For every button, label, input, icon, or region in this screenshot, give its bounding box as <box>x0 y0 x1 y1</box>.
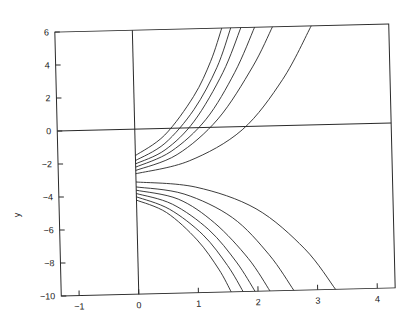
x-tick-label: 0 <box>136 300 141 310</box>
y-tick-label: 2 <box>45 93 50 103</box>
y-tick-label: −2 <box>42 159 53 169</box>
y-tick-label: −10 <box>40 291 56 301</box>
x-tick-label: 2 <box>256 297 261 307</box>
reference-lines <box>55 24 395 296</box>
curve-upper-6 <box>132 26 314 174</box>
data-curves <box>132 25 335 294</box>
chart: −101234 6420−2−4−6−8−10 y <box>0 0 413 325</box>
y-tick-label: −8 <box>44 258 55 268</box>
curve-upper-1 <box>132 28 225 156</box>
curve-upper-3 <box>132 28 244 164</box>
curve-upper-2 <box>132 28 234 161</box>
x-tick-label: −1 <box>74 301 85 311</box>
plot-area: −101234 6420−2−4−6−8−10 <box>33 19 395 313</box>
curve-upper-5 <box>132 27 276 171</box>
y-axis-ticks: 6420−2−4−6−8−10 <box>33 27 66 302</box>
x-tick-label: 3 <box>315 296 320 306</box>
curve-lower-1 <box>136 177 336 294</box>
y-tick-label: 0 <box>46 126 51 136</box>
y-tick-label: 6 <box>44 27 49 37</box>
y-zero-line <box>57 123 391 131</box>
y-tick-label: −6 <box>43 225 54 235</box>
y-tick-label: −4 <box>42 192 53 202</box>
y-axis-label: y <box>12 212 22 217</box>
y-tick-label: 4 <box>44 60 49 70</box>
x-zero-line <box>132 30 138 294</box>
curve-lower-6 <box>136 198 231 294</box>
curve-lower-5 <box>136 194 243 294</box>
x-tick-label: 1 <box>196 299 201 309</box>
x-tick-label: 4 <box>375 294 380 304</box>
plot-frame <box>55 24 395 296</box>
